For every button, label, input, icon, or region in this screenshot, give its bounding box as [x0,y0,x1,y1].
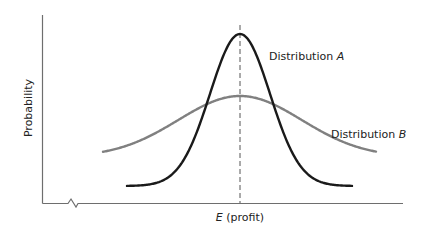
y-axis-label: Probability [22,78,35,137]
distribution-a-label: Distribution A [269,50,344,63]
x-axis [43,199,404,207]
x-axis-label: E (profit) [216,211,264,224]
probability-distribution-chart: Distribution A Distribution B E (profit)… [0,0,422,235]
distribution-b-label: Distribution B [331,128,406,141]
